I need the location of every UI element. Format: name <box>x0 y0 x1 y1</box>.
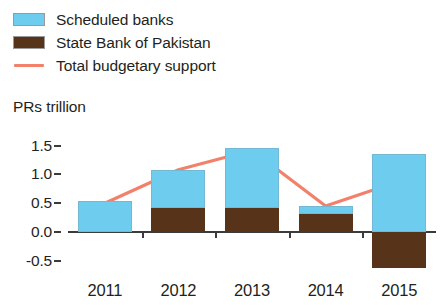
bar-segment-scheduled-banks <box>225 148 279 208</box>
y-axis-tick-label: 1.5 <box>4 137 52 155</box>
x-axis-tick-mark <box>362 233 364 238</box>
x-axis-tick-label: 2011 <box>87 281 122 300</box>
y-axis-tick-mark <box>54 145 61 147</box>
x-axis-tick-mark <box>289 233 291 238</box>
chart-figure: Scheduled banks State Bank of Pakistan T… <box>0 0 442 305</box>
x-axis-tick-mark <box>215 233 217 238</box>
bar-segment-state-bank-of-pakistan <box>372 232 426 268</box>
y-axis-tick-label: 1.0 <box>4 165 52 183</box>
y-axis-tick-mark <box>54 260 61 262</box>
bar-segment-state-bank-of-pakistan <box>151 208 205 232</box>
bar-segment-state-bank-of-pakistan <box>299 214 353 232</box>
bar-segment-scheduled-banks <box>78 201 132 232</box>
plot-area: 1.51.00.50.0-0.520112012201320142015 <box>0 0 442 305</box>
x-axis-tick-label: 2014 <box>308 281 344 300</box>
x-axis-tick-label: 2012 <box>160 281 196 300</box>
y-axis-tick-mark <box>54 202 61 204</box>
bar-segment-scheduled-banks <box>299 206 353 213</box>
bar-segment-scheduled-banks <box>372 154 426 232</box>
y-axis-tick-mark <box>54 231 61 233</box>
y-axis-tick-label: 0.5 <box>4 194 52 212</box>
bar-segment-scheduled-banks <box>151 170 205 208</box>
y-axis-tick-mark <box>54 173 61 175</box>
bar-segment-state-bank-of-pakistan <box>225 208 279 232</box>
x-axis-tick-label: 2013 <box>234 281 270 300</box>
x-axis-tick-mark <box>142 233 144 238</box>
y-axis-tick-label: 0.0 <box>4 223 52 241</box>
y-axis-tick-label: -0.5 <box>4 252 52 270</box>
x-axis-tick-label: 2015 <box>381 281 417 300</box>
